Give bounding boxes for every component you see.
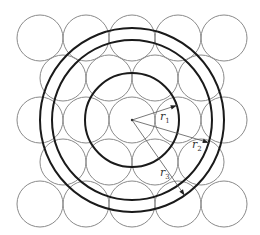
radius-labels: r1 r2 r3 — [160, 110, 202, 181]
r1-label: r1 — [160, 110, 170, 125]
small-circle — [201, 15, 247, 61]
small-circle — [109, 181, 155, 227]
circle-packing-diagram: r1 r2 r3 — [0, 0, 260, 235]
arrowhead-icon — [170, 105, 176, 109]
small-circle — [201, 181, 247, 227]
small-circle — [109, 15, 155, 61]
arrowhead-icon — [179, 189, 184, 195]
radius-line-1 — [132, 105, 177, 120]
small-circle — [17, 15, 63, 61]
r3-label: r3 — [160, 166, 170, 181]
center-point — [131, 119, 133, 121]
small-circle — [17, 181, 63, 227]
